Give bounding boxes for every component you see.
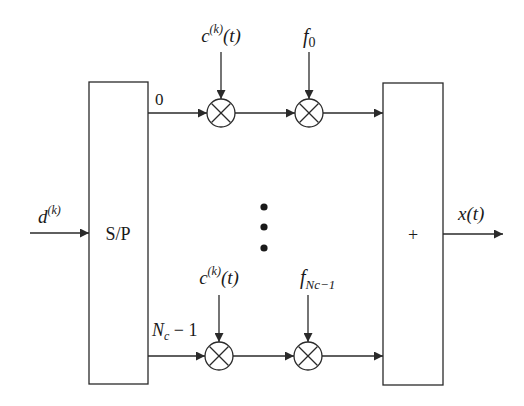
branch-n-carrier-label: fNc−1 bbox=[300, 266, 335, 292]
multiplier-icon bbox=[205, 342, 233, 370]
ellipsis-dots bbox=[260, 203, 267, 251]
branch-n-index-label: Nc − 1 bbox=[151, 320, 198, 343]
branch-0-carrier-label: f0 bbox=[303, 25, 316, 50]
sp-label: S/P bbox=[105, 224, 130, 244]
sum-label: + bbox=[408, 225, 418, 245]
output-label: x(t) bbox=[457, 203, 484, 225]
multiplier-icon bbox=[294, 342, 322, 370]
multiplier-icon bbox=[207, 99, 235, 127]
mc-cdma-transmitter-diagram: S/P + d(k) x(t) 0 c(k)(t) f0 Nc − 1 c(k)… bbox=[0, 0, 524, 406]
branch-0-index-label: 0 bbox=[155, 90, 164, 109]
input-label: d(k) bbox=[38, 203, 61, 227]
branch-n-code-label: c(k)(t) bbox=[199, 264, 239, 289]
branch-0-code-label: c(k)(t) bbox=[201, 22, 241, 47]
multiplier-icon bbox=[295, 99, 323, 127]
